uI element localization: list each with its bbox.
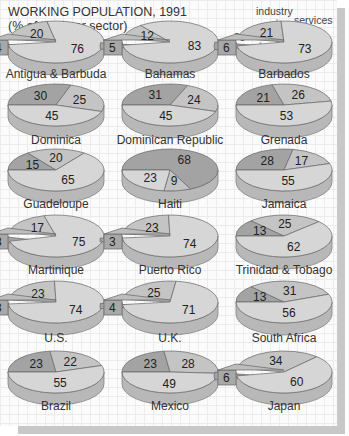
value-industry: 12 [141,29,155,43]
value-agriculture: 13 [253,224,267,238]
pie-chart: 281755Jamaica [236,149,332,211]
pie-chart: 132562Trinidad & Tobago [236,215,333,277]
value-industry: 25 [278,217,292,231]
value-industry: 34 [269,354,283,368]
pie-chart: 212653Grenada [236,84,332,147]
value-services: 76 [71,42,85,56]
country-label: Puerto Rico [139,263,202,277]
country-label: Japan [268,399,301,413]
value-industry: 9 [171,174,178,188]
value-agriculture: 6 [223,41,230,55]
pie-chart: 68923Haiti [122,149,218,211]
pie-chart: 81775Martinique [0,215,104,277]
country-label: Jamaica [262,197,307,211]
country-label: U.S. [44,331,67,345]
value-agriculture: 13 [253,290,267,304]
value-industry: 17 [31,221,45,235]
pie-chart: 32374Puerto Rico [100,215,218,277]
value-industry: 23 [31,287,45,301]
pie-chart: 63460Japan [214,351,332,413]
pie-chart: 152065Guadeloupe [8,149,104,211]
value-services: 75 [72,235,86,249]
value-agriculture: 68 [177,153,191,167]
value-services: 65 [61,173,75,187]
country-label: Bahamas [145,67,196,81]
value-services: 83 [188,39,202,53]
value-industry: 24 [187,93,201,107]
value-industry: 23 [145,221,159,235]
country-label: Barbados [258,67,309,81]
value-agriculture: 30 [34,89,48,103]
value-industry: 25 [147,286,161,300]
country-label: Haiti [158,197,182,211]
value-agriculture: 4 [109,301,116,315]
value-services: 62 [287,240,301,254]
value-agriculture: 23 [144,357,158,371]
value-services: 74 [69,303,83,317]
value-agriculture: 6 [223,371,230,385]
pie-chart: 133156South Africa [236,281,332,345]
value-services: 56 [282,306,296,320]
value-industry: 17 [295,154,309,168]
pie-chart: 312445Dominican Republic [117,84,224,147]
value-services: 55 [281,174,295,188]
country-label: Antigua & Barbuda [6,67,107,81]
country-label: Brazil [41,399,71,413]
pie-chart: 232849Mexico [122,351,218,413]
country-label: Guadeloupe [23,197,89,211]
country-label: Martinique [28,263,84,277]
country-label: Trinidad & Tobago [236,263,333,277]
value-industry: 28 [181,357,195,371]
pie-chart: 51283Bahamas [100,21,218,81]
value-services: 45 [159,109,173,123]
country-label: Dominica [31,133,81,147]
value-services: 74 [183,237,197,251]
value-industry: 20 [49,151,63,165]
value-agriculture: 3 [109,235,116,249]
value-agriculture: 31 [148,88,162,102]
pie-chart: 232255Brazil [8,351,104,413]
value-services: 53 [280,109,294,123]
value-services: 71 [182,303,196,317]
value-industry: 21 [260,26,274,40]
country-label: Grenada [261,133,308,147]
pie-charts-grid: 42076Antigua & Barbuda51283Bahamas62173B… [0,0,349,436]
value-industry: 26 [291,88,305,102]
value-services: 73 [298,42,312,56]
value-industry: 22 [63,355,77,369]
value-agriculture: 15 [26,158,40,172]
value-agriculture: 23 [30,357,44,371]
pie-chart: 302545Dominica [8,84,104,147]
value-services: 45 [45,109,59,123]
value-services: 60 [290,375,304,389]
value-agriculture: 28 [260,154,274,168]
pie-chart: 32374U.S. [0,281,104,345]
value-industry: 31 [283,284,297,298]
value-services: 55 [53,376,67,390]
pie-chart: 62173Barbados [214,21,332,81]
value-agriculture: 21 [256,91,270,105]
country-label: U.K. [158,331,181,345]
country-label: South Africa [252,331,317,345]
value-services: 49 [162,377,176,391]
country-label: Mexico [151,399,189,413]
value-industry: 20 [30,27,44,41]
country-label: Dominican Republic [117,133,224,147]
pie-chart: 42076Antigua & Barbuda [0,21,107,81]
pie-chart: 42571U.K. [100,281,218,345]
value-services: 23 [144,171,158,185]
value-industry: 25 [73,93,87,107]
value-agriculture: 5 [109,41,116,55]
